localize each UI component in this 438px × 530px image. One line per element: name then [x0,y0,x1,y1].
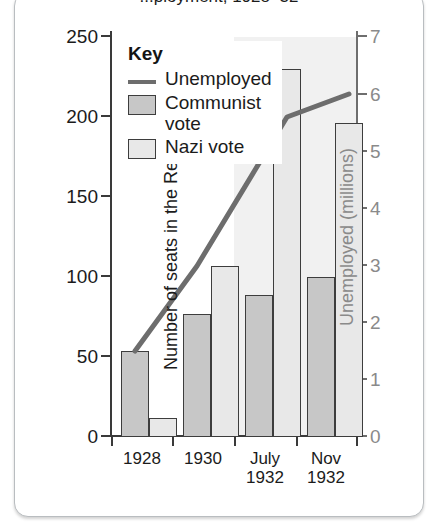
y-tick-left [101,35,110,37]
legend-bar-swatch-communist-icon [128,95,156,115]
legend-label-communist: Communist vote [165,92,261,135]
legend-title: Key [128,43,272,65]
legend-label-unemployed: Unemployed [165,68,272,89]
y-tick-left [101,115,110,117]
y-tick-right [358,93,367,95]
y-tick-label-left: 100 [66,266,98,288]
legend-line-swatch-icon [128,71,156,91]
y-tick-label-right: 0 [370,426,381,448]
legend-item-unemployed: Unemployed [128,68,272,91]
x-tick [356,437,358,446]
y-tick-label-right: 5 [370,141,381,163]
plot-area: 0 50 100 150 200 250 0 1 2 3 4 5 6 7 [110,37,358,437]
y-tick-left [101,435,110,437]
y-tick-left [101,355,110,357]
y-tick-label-left: 250 [66,26,98,48]
y-tick-label-right: 6 [370,84,381,106]
legend-item-nazi: Nazi vote [128,136,272,159]
legend-label-nazi: Nazi vote [165,136,244,157]
y-tick-left [101,195,110,197]
y-tick-left [101,275,110,277]
x-tick-label: 1928 [123,449,161,468]
x-tick [172,437,174,446]
y-tick-label-left: 200 [66,106,98,128]
y-tick-right [358,35,367,37]
y-tick-label-right: 3 [370,255,381,277]
y-tick-label-right: 2 [370,312,381,334]
chart-title: ...ployment, 1928–32 [15,0,423,7]
legend-bar-swatch-nazi-icon [128,139,156,159]
legend-item-communist: Communist vote [128,92,272,135]
y-tick-label-right: 4 [370,198,381,220]
x-tick [234,437,236,446]
chart-legend: Key Unemployed Communist vote Nazi vote [124,41,282,164]
chart-card: ...ployment, 1928–32 0 50 100 150 200 25… [14,0,424,517]
y-tick-label-left: 0 [87,426,98,448]
x-tick [111,437,113,446]
x-tick-label: July 1932 [246,449,284,487]
x-tick [296,437,298,446]
y-tick-label-right: 7 [370,26,381,48]
x-tick-label: Nov 1932 [307,449,345,487]
x-tick-label: 1930 [184,449,222,468]
y-tick-label-right: 1 [370,369,381,391]
y-tick-label-left: 150 [66,186,98,208]
y-tick-label-left: 50 [77,346,98,368]
y-axis-right-title: Unemployed (millions) [336,148,357,326]
